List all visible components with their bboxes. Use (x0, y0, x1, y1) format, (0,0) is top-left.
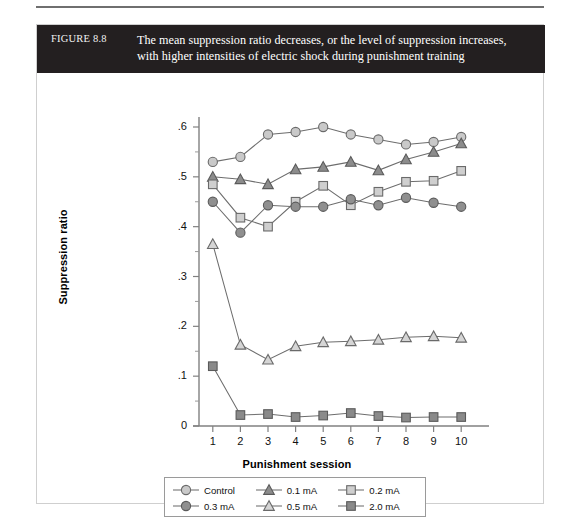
marker-circle (181, 485, 190, 494)
data-point-marker (236, 228, 245, 237)
data-point-marker (429, 177, 438, 186)
marker-square (402, 178, 411, 187)
data-point-marker (319, 411, 328, 420)
legend-label: 0.5 mA (284, 501, 317, 512)
marker-square (236, 213, 245, 222)
marker-square (402, 413, 411, 422)
legend-item-control[interactable]: Control (171, 483, 254, 497)
data-point-marker (346, 195, 355, 204)
marker-square (319, 182, 328, 191)
marker-square (209, 362, 218, 371)
data-point-marker (235, 339, 246, 349)
marker-circle (263, 201, 272, 210)
data-point-marker (208, 197, 217, 206)
data-point-marker (402, 178, 411, 187)
marker-square (319, 411, 328, 420)
data-point-marker (346, 157, 357, 167)
marker-circle (236, 228, 245, 237)
line-chart-canvas (37, 73, 545, 504)
legend-label: 0.1 mA (284, 485, 317, 496)
marker-square (264, 410, 273, 419)
data-point-marker (209, 180, 218, 189)
data-point-marker (347, 502, 356, 511)
plot-area: Suppression ratio Punishment session 0.1… (37, 73, 545, 504)
marker-triangle (373, 165, 384, 175)
marker-circle (319, 202, 328, 211)
series-control (208, 122, 466, 166)
legend-row: 0.3 mA0.5 mA2.0 mA (171, 498, 419, 514)
series-2-0-ma (209, 362, 466, 422)
data-point-marker (208, 239, 219, 249)
data-point-marker (236, 213, 245, 222)
marker-circle (208, 157, 217, 166)
marker-square (347, 502, 356, 511)
marker-circle (346, 195, 355, 204)
series-line (213, 244, 461, 360)
legend-label: 0.2 mA (366, 485, 399, 496)
data-point-marker (181, 485, 190, 494)
figure-caption-bar: FIGURE 8.8 The mean suppression ratio de… (37, 25, 545, 73)
marker-circle (291, 202, 300, 211)
series-line (213, 198, 461, 233)
data-point-marker (236, 411, 245, 420)
marker-triangle (428, 331, 439, 341)
legend-item-0-3-ma[interactable]: 0.3 mA (171, 499, 254, 513)
data-point-marker (264, 410, 273, 419)
figure-caption-text: The mean suppression ratio decreases, or… (137, 32, 507, 64)
data-point-marker (429, 198, 438, 207)
marker-circle (291, 127, 300, 136)
series-line (213, 171, 461, 227)
legend-marker-icon (336, 499, 366, 513)
marker-triangle (346, 157, 357, 167)
marker-square (374, 187, 383, 196)
marker-circle (319, 122, 328, 131)
legend-label: 2.0 mA (366, 501, 399, 512)
marker-square (291, 413, 300, 422)
data-point-marker (263, 354, 274, 364)
data-point-marker (374, 187, 383, 196)
data-point-marker (346, 130, 355, 139)
marker-triangle (428, 147, 439, 157)
marker-circle (401, 193, 410, 202)
figure-number-label: FIGURE 8.8 (51, 32, 137, 44)
data-point-marker (291, 202, 300, 211)
data-point-marker (457, 167, 466, 176)
legend-item-2-0-ma[interactable]: 2.0 mA (336, 499, 419, 513)
data-point-marker (319, 182, 328, 191)
legend-item-0-5-ma[interactable]: 0.5 mA (254, 499, 337, 513)
marker-circle (429, 198, 438, 207)
marker-circle (374, 201, 383, 210)
marker-square (374, 412, 383, 421)
marker-triangle (263, 354, 274, 364)
data-point-marker (263, 130, 272, 139)
marker-circle (401, 140, 410, 149)
data-point-marker (374, 135, 383, 144)
figure-container: FIGURE 8.8 The mean suppression ratio de… (36, 24, 544, 504)
marker-triangle (208, 239, 219, 249)
legend-item-0-1-ma[interactable]: 0.1 mA (254, 483, 337, 497)
data-point-marker (208, 157, 217, 166)
caption-line-1: The mean suppression ratio decreases, or… (137, 32, 507, 48)
marker-circle (208, 197, 217, 206)
marker-circle (346, 130, 355, 139)
data-point-marker (236, 152, 245, 161)
data-point-marker (428, 147, 439, 157)
page-top-rule (36, 6, 544, 8)
data-point-marker (402, 413, 411, 422)
chart-legend: Control0.1 mA0.2 mA 0.3 mA0.5 mA2.0 mA (164, 477, 426, 517)
series-0-3-ma (208, 193, 466, 237)
marker-square (236, 411, 245, 420)
marker-square (264, 222, 273, 231)
marker-square (209, 180, 218, 189)
data-point-marker (373, 165, 384, 175)
marker-circle (429, 137, 438, 146)
marker-square (347, 409, 356, 418)
data-point-marker (428, 331, 439, 341)
data-point-marker (264, 222, 273, 231)
marker-square (457, 413, 466, 422)
data-point-marker (319, 122, 328, 131)
marker-circle (457, 202, 466, 211)
data-point-marker (457, 202, 466, 211)
legend-item-0-2-ma[interactable]: 0.2 mA (336, 483, 419, 497)
data-point-marker (429, 413, 438, 422)
